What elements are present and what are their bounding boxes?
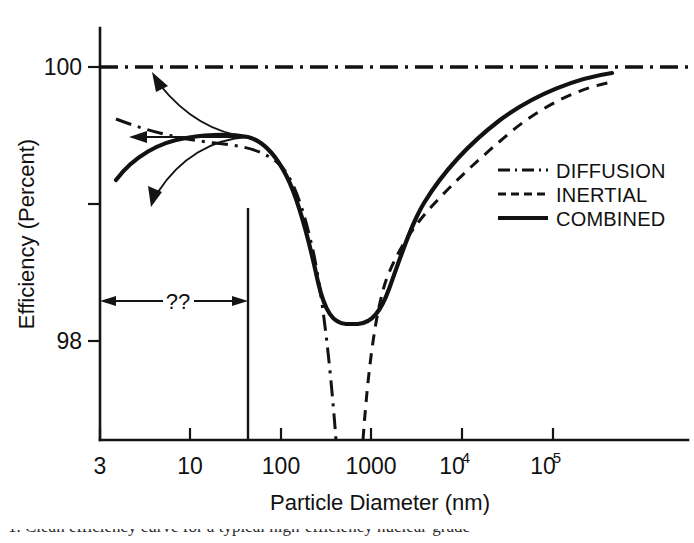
figure-caption-strip: 1. Clean efficiency curve for a typical … (0, 529, 694, 543)
efficiency-vs-particle-diameter-chart: 100 98 3 10 100 1000 10 4 10 5 Particle … (0, 0, 694, 543)
y-tick-label-100: 100 (44, 54, 82, 80)
legend-label-diffusion: DIFFUSION (556, 160, 666, 182)
curve-to-100-arrow (152, 72, 248, 137)
series-combined-curve (116, 73, 612, 324)
x-tick-label-100000-exponent: 5 (553, 449, 561, 466)
x-tick-label-100: 100 (262, 453, 300, 479)
x-axis-title: Particle Diameter (nm) (270, 490, 490, 515)
question-span-left-arrowhead (100, 296, 116, 306)
x-tick-label-10: 10 (177, 453, 203, 479)
question-span-label: ?? (166, 289, 190, 314)
curve-down-arrow (148, 137, 248, 207)
legend-item-inertial[interactable]: INERTIAL (498, 184, 647, 206)
figure-caption: 1. Clean efficiency curve for a typical … (8, 529, 694, 537)
y-tick-label-98: 98 (56, 328, 82, 354)
legend-label-combined: COMBINED (556, 208, 665, 230)
figure-page: 100 98 3 10 100 1000 10 4 10 5 Particle … (0, 0, 694, 543)
x-tick-label-3: 3 (94, 453, 107, 479)
peak-pointer-arrowhead (129, 131, 147, 143)
series-diffusion-curve (116, 119, 336, 440)
y-axis-title: Efficiency (Percent) (14, 139, 39, 329)
plot-axes (100, 28, 688, 440)
question-span-right-arrowhead (232, 296, 248, 306)
x-tick-label-100000: 10 5 (530, 449, 561, 479)
curve-down-shaft (158, 137, 248, 192)
x-axis-ticks (100, 428, 553, 440)
legend-item-combined[interactable]: COMBINED (498, 208, 665, 230)
y-axis-ticks (88, 67, 100, 341)
x-tick-label-10000-exponent: 4 (462, 449, 470, 466)
chart-legend: DIFFUSION INERTIAL COMBINED (498, 160, 666, 230)
curve-to-100-arrowhead (152, 72, 168, 92)
legend-item-diffusion[interactable]: DIFFUSION (498, 160, 666, 182)
x-tick-label-1000: 1000 (345, 453, 396, 479)
x-tick-label-10000: 10 4 (439, 449, 470, 479)
curve-to-100-shaft (160, 85, 248, 137)
legend-label-inertial: INERTIAL (556, 184, 647, 206)
question-span-annotation: ?? (100, 289, 248, 314)
